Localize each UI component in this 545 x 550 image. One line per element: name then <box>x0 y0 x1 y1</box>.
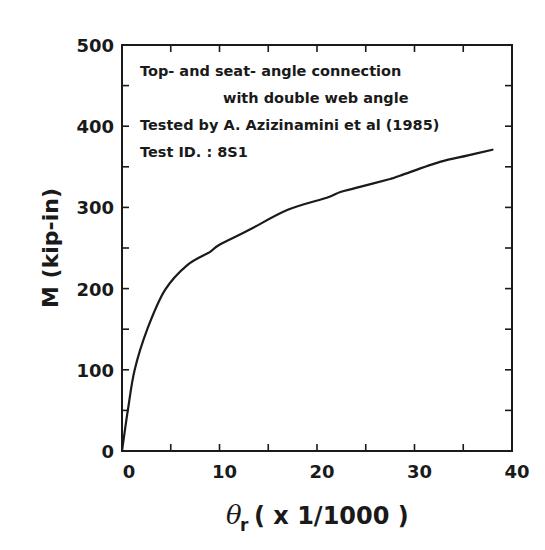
x-tick-label: 30 <box>407 461 432 482</box>
annotation-line-3: Tested by A. Azizinamini et al (1985) <box>140 117 439 133</box>
annotation-line-4: Test ID. : 8S1 <box>140 144 248 160</box>
y-tick-label: 300 <box>76 197 114 218</box>
x-tick-label: 20 <box>309 461 334 482</box>
x-axis-unit: ( x 1/1000 ) <box>254 502 409 530</box>
y-tick-label: 200 <box>76 279 114 300</box>
y-tick-label: 400 <box>76 116 114 137</box>
theta-subscript: r <box>240 515 249 535</box>
annotation-line-2: with double web angle <box>223 90 409 106</box>
moment-rotation-chart: 0100200300400500010203040 Top- and seat-… <box>0 0 545 550</box>
x-axis-label: θ r ( x 1/1000 ) <box>226 500 409 535</box>
annotation-line-1: Top- and seat- angle connection <box>140 63 401 79</box>
x-tick-label: 0 <box>123 461 136 482</box>
y-tick-label: 500 <box>76 35 114 56</box>
data-series-line <box>122 150 493 451</box>
x-tick-label: 40 <box>504 461 529 482</box>
y-axis-label: M (kip-in) <box>38 188 63 308</box>
y-tick-label: 100 <box>76 360 114 381</box>
y-tick-label: 0 <box>101 441 114 462</box>
x-tick-label: 10 <box>212 461 237 482</box>
